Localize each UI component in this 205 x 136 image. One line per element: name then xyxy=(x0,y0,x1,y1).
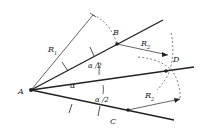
ray-ab xyxy=(31,20,163,90)
tick-mark xyxy=(62,62,68,71)
arc-from-b xyxy=(157,33,173,90)
bisector-diagram: A B C D R 1 R 2 R 2 α α /2 α /2 xyxy=(0,0,205,136)
label-r1-sub: 1 xyxy=(54,50,57,56)
label-b: B xyxy=(112,28,119,37)
point-a xyxy=(29,88,33,92)
point-b xyxy=(115,42,119,46)
point-d xyxy=(164,69,168,73)
label-alpha-half-lower: α /2 xyxy=(95,96,109,104)
arrowhead-icon xyxy=(174,98,180,103)
label-alpha: α xyxy=(70,81,76,90)
label-r2-lower: R xyxy=(144,91,151,100)
label-c: C xyxy=(110,117,116,126)
tick-mark xyxy=(98,106,100,116)
tick-mark xyxy=(90,47,94,56)
tick-mark xyxy=(69,104,72,113)
label-r2-upper: R xyxy=(140,39,147,48)
radius-r1-line xyxy=(31,15,93,90)
label-r1: R xyxy=(47,45,54,54)
label-r2-lower-sub: 2 xyxy=(150,96,154,102)
label-alpha-half-upper: α /2 xyxy=(88,62,102,70)
angle-arc-lower xyxy=(103,85,104,94)
point-c xyxy=(126,108,130,112)
label-a: A xyxy=(17,87,24,96)
label-d: D xyxy=(172,55,180,64)
label-r2-upper-sub: 2 xyxy=(146,44,150,50)
